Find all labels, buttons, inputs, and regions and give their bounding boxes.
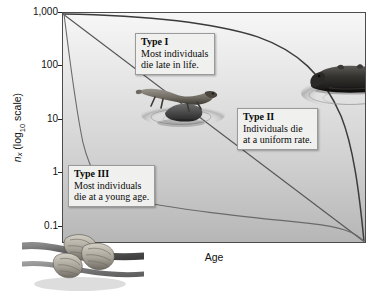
- callout-type-2-title: Type II: [243, 111, 312, 123]
- callout-type-2-line-1: Individuals die: [243, 123, 312, 135]
- callout-type-3-line-1: Most individuals: [74, 180, 149, 192]
- callout-type-3-title: Type III: [74, 168, 149, 180]
- y-tick-label-10: 10: [47, 114, 58, 124]
- callout-type-1-title: Type I: [141, 36, 209, 48]
- callout-type-2-line-2: at a uniform rate.: [243, 134, 312, 146]
- callout-type-1-line-1: Most individuals: [141, 48, 209, 60]
- y-tick-label-1000: 1,000: [33, 7, 58, 17]
- survivorship-curve-figure: 1,000 100 10 1 0.1 nx (log10 scale): [0, 0, 384, 302]
- callout-type-1-line-2: die late in life.: [141, 59, 209, 71]
- y-axis-title: nx (log10 scale): [11, 68, 26, 188]
- callout-type-1: Type I Most individuals die late in life…: [135, 33, 215, 75]
- hippopotamus-illustration: [299, 57, 366, 113]
- callout-type-2: Type II Individuals die at a uniform rat…: [237, 108, 318, 150]
- callout-type-3: Type III Most individuals die at a young…: [68, 165, 155, 207]
- x-axis-title: Age: [62, 251, 366, 263]
- y-tick-label-100: 100: [41, 60, 58, 70]
- callout-type-3-line-2: die at a young age.: [74, 191, 149, 203]
- salamander-illustration: [135, 73, 227, 129]
